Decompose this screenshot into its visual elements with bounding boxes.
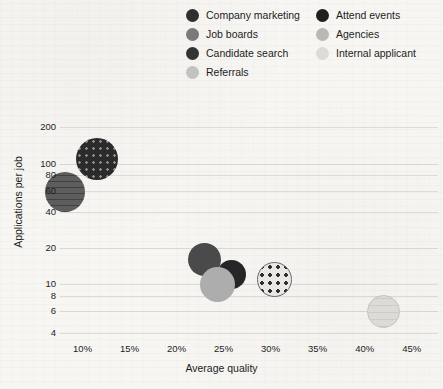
legend-item[interactable]: Candidate search (186, 44, 300, 63)
legend-item[interactable]: Company marketing (186, 6, 300, 25)
y-axis-tick-label: 4 (51, 328, 56, 338)
legend-item[interactable]: Referrals (186, 63, 300, 82)
plot-area (60, 120, 438, 338)
x-axis-tick-label: 30% (261, 344, 280, 354)
y-axis-label: Applications per job (12, 142, 24, 262)
legend-swatch-icon (316, 28, 329, 41)
y-axis-tick-label: 6 (51, 306, 56, 316)
legend-swatch-icon (316, 47, 329, 60)
legend-swatch-icon (186, 66, 199, 79)
legend-item[interactable]: Job boards (186, 25, 300, 44)
legend-column-right: Attend eventsAgenciesInternal applicant (316, 6, 416, 63)
data-bubble-internal-applicant[interactable] (367, 295, 400, 328)
x-axis-tick-label: 15% (120, 344, 139, 354)
x-axis-tick-label: 35% (308, 344, 327, 354)
y-axis-tick-label: 10 (45, 279, 56, 289)
gridline (60, 127, 438, 128)
legend-item[interactable]: Agencies (316, 25, 416, 44)
x-axis-tick-label: 25% (214, 344, 233, 354)
gridline (60, 175, 438, 176)
data-bubble-agencies[interactable] (257, 262, 292, 297)
x-axis-label: Average quality (0, 362, 443, 374)
x-axis-tick-label: 10% (73, 344, 92, 354)
x-axis-tick-label: 45% (402, 344, 421, 354)
legend-item-label: Attend events (336, 9, 400, 22)
y-axis-tick-label: 60 (45, 186, 56, 196)
y-axis-tick-label: 80 (45, 170, 56, 180)
y-axis-tick-label: 100 (40, 159, 56, 169)
gridline (60, 212, 438, 213)
y-axis-tick-label: 20 (45, 243, 56, 253)
legend-item-label: Company marketing (206, 9, 300, 22)
legend-swatch-icon (316, 9, 329, 22)
gridline (60, 248, 438, 249)
legend-item[interactable]: Internal applicant (316, 44, 416, 63)
y-axis-tick-label: 40 (45, 207, 56, 217)
legend-item[interactable]: Attend events (316, 6, 416, 25)
legend-item-label: Agencies (336, 28, 379, 41)
gridline (60, 284, 438, 285)
legend-swatch-icon (186, 47, 199, 60)
data-bubble-referrals[interactable] (200, 267, 235, 302)
data-bubble-candidate-search[interactable] (76, 138, 118, 180)
x-axis-tick-label: 20% (167, 344, 186, 354)
gridline (60, 191, 438, 192)
x-axis-tick-label: 40% (355, 344, 374, 354)
legend-swatch-icon (186, 28, 199, 41)
legend-item-label: Internal applicant (336, 47, 416, 60)
gridline (60, 333, 438, 334)
legend-column-left: Company marketingJob boardsCandidate sea… (186, 6, 300, 82)
y-axis-ticks: 2001008060402010864 (0, 120, 56, 338)
legend-item-label: Job boards (206, 28, 258, 41)
x-axis-ticks: 10%15%20%25%30%35%40%45% (60, 344, 438, 358)
legend-item-label: Referrals (206, 66, 249, 79)
legend-item-label: Candidate search (206, 47, 288, 60)
chart-legend: Company marketingJob boardsCandidate sea… (186, 6, 438, 82)
y-axis-tick-label: 8 (51, 291, 56, 301)
legend-swatch-icon (186, 9, 199, 22)
y-axis-tick-label: 200 (40, 122, 56, 132)
